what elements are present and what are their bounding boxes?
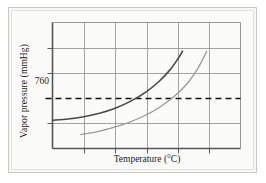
chart-axes [53, 23, 241, 149]
chart-gridlines [53, 23, 241, 149]
volatile-liquid-curve [53, 51, 183, 120]
chart-axis-ticks [48, 49, 210, 154]
x-axis-label: Temperature (°C) [52, 154, 242, 164]
chart-data-curves [53, 51, 207, 134]
y-tick-label-760: 760 [25, 76, 49, 86]
vapor-pressure-figure: Vapor pressure (mmHg) 760 Temperature (°… [0, 0, 266, 183]
y-axis-label: Vapor pressure (mmHg) [19, 26, 29, 156]
